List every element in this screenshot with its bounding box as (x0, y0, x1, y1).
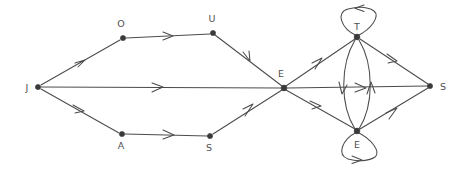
edge-curve (344, 40, 355, 129)
arrow-head-icon (367, 82, 375, 94)
node-label-S2: S (440, 81, 446, 92)
edge-J-E1 (41, 83, 281, 92)
edge-line (286, 39, 355, 86)
arrow-head-icon (339, 82, 347, 94)
arrow-head-icon (75, 60, 85, 67)
edge-O-U (126, 32, 210, 40)
edge-line (126, 34, 210, 38)
node-J[interactable] (35, 84, 40, 89)
edge-curve (359, 40, 370, 129)
arrow-head-icon (355, 5, 364, 12)
node-layer (35, 30, 432, 138)
node-label-E2: E (354, 139, 360, 150)
edge-T-E2-curve (339, 40, 355, 129)
graph-svg: J O U A S E T E S (0, 0, 463, 169)
node-label-S1: S (206, 142, 212, 153)
node-O[interactable] (120, 35, 125, 40)
edge-line (41, 40, 120, 85)
edge-line (125, 134, 207, 136)
node-label-T: T (353, 21, 360, 32)
node-label-J: J (24, 82, 28, 93)
edge-E1-T (286, 39, 355, 86)
arrow-head-icon (387, 54, 397, 63)
node-S2[interactable] (427, 83, 432, 88)
edge-J-O (41, 40, 120, 85)
edge-layer (41, 32, 428, 139)
edge-J-A (41, 89, 119, 133)
arrow-head-icon (73, 105, 84, 113)
node-A[interactable] (119, 131, 124, 136)
edge-S1-E1 (213, 90, 282, 134)
node-label-A: A (118, 140, 125, 151)
node-U[interactable] (210, 30, 215, 35)
node-label-O: O (117, 18, 125, 29)
edge-E2-T-curve (359, 40, 375, 129)
node-E2[interactable] (354, 128, 360, 134)
edge-line (41, 89, 119, 133)
node-E1[interactable] (281, 85, 287, 91)
edge-E1-S2 (287, 83, 428, 92)
node-T[interactable] (354, 34, 360, 40)
edge-U-E1 (215, 35, 282, 86)
node-S1[interactable] (207, 133, 212, 138)
edge-A-S1 (125, 130, 207, 139)
label-layer: J O U A S E T E S (24, 13, 446, 153)
edge-line (215, 35, 282, 86)
diagram-canvas: J O U A S E T E S (0, 0, 463, 169)
node-label-U: U (208, 13, 215, 24)
node-label-E1: E (278, 68, 284, 79)
edge-line (287, 86, 428, 88)
